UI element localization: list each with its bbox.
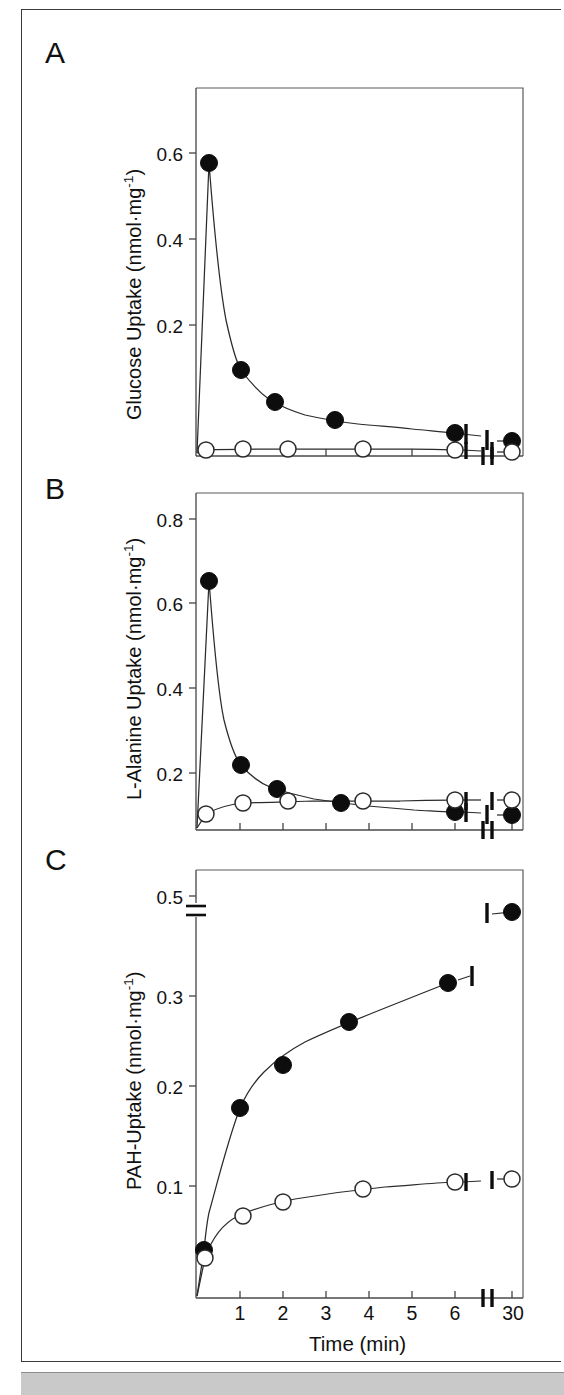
data-point [440,975,457,992]
figure-root: A Glucose Uptake (nmol·mg-1) 0.6 0.4 0.2 [0,0,564,1395]
xtick-label-30: 30 [493,1304,533,1324]
xtick-label-5: 5 [394,1304,430,1324]
data-point [504,1171,520,1187]
data-point [275,1194,291,1210]
data-point [232,1100,249,1117]
data-point [275,1057,292,1074]
data-point [504,904,521,921]
data-point [197,1250,213,1266]
xtick-label-4: 4 [351,1304,387,1324]
data-point [447,1174,463,1190]
data-point [235,1208,251,1224]
data-point [355,1181,371,1197]
xtick-label-2: 2 [265,1304,301,1324]
xtick-label-3: 3 [308,1304,344,1324]
x-axis-label: Time (min) [309,1334,406,1355]
panel-c-plot [0,0,564,1395]
xtick-label-6: 6 [437,1304,473,1324]
xtick-label-1: 1 [222,1304,258,1324]
data-point [341,1014,358,1031]
